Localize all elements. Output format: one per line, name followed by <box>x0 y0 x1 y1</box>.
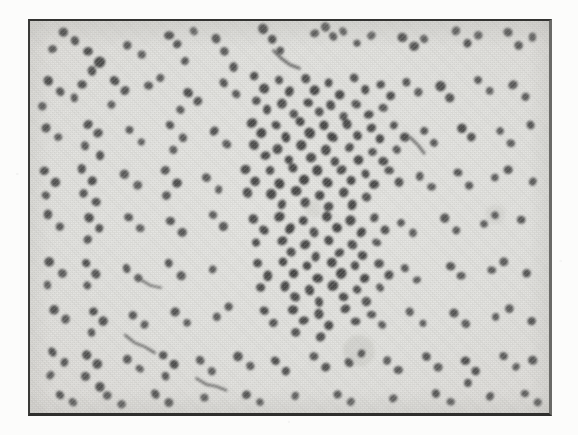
bacterial-cells-layer <box>30 21 549 413</box>
page-background <box>0 0 578 435</box>
cell-bodies <box>37 21 543 409</box>
micrograph-plate <box>28 19 552 416</box>
